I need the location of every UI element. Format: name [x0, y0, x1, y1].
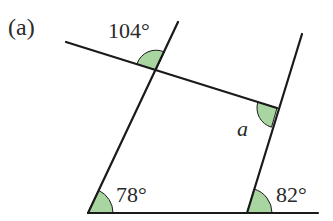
angle-label-82: 82°: [276, 182, 307, 207]
diagram-canvas: (a) 104° a 78° 82°: [0, 0, 333, 221]
part-label: (a): [8, 14, 35, 40]
angle-sector-78: [88, 190, 113, 213]
geometry-figure: (a) 104° a 78° 82°: [0, 0, 333, 221]
transversal-line: [66, 42, 277, 108]
angle-label-104: 104°: [108, 18, 150, 43]
angle-label-a: a: [237, 116, 248, 141]
angle-label-78: 78°: [116, 182, 147, 207]
